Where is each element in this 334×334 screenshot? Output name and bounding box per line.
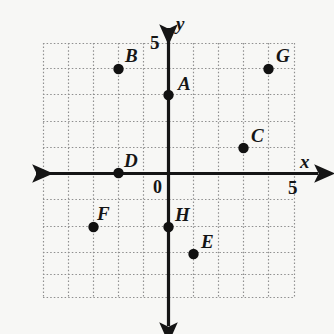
x-axis-tick-label-5: 5 [288,178,298,197]
point-label-a: A [178,74,191,93]
point-label-h: H [175,205,190,224]
data-point-e[interactable] [188,249,198,259]
y-axis-label: y [176,14,184,33]
point-label-g: G [276,46,290,65]
data-point-a[interactable] [163,90,173,100]
point-label-d: D [124,151,138,170]
data-point-g[interactable] [263,64,273,74]
coordinate-plane-figure: A B C D E F G H y x 5 5 0 [0,0,334,334]
point-label-f: F [97,204,110,223]
point-label-b: B [125,46,138,65]
point-label-c: C [251,126,264,145]
data-point-c[interactable] [238,143,248,153]
point-label-e: E [201,232,214,251]
y-axis-tick-label-5: 5 [150,33,160,52]
data-point-b[interactable] [113,64,123,74]
origin-label: 0 [153,178,162,196]
data-point-d[interactable] [113,168,123,178]
data-point-h[interactable] [163,222,173,232]
x-axis-label: x [300,152,310,171]
